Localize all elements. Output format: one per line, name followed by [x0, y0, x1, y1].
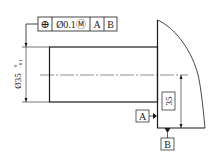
svg-text:Ø35: Ø35 [13, 73, 23, 89]
fcf-datum-secondary: B [107, 19, 114, 30]
datum-b-label: B [164, 139, 171, 150]
datum-a-label: A [139, 111, 147, 122]
diameter-dimension-text: Ø35 0 -0.1 [13, 59, 23, 89]
datum-a-triangle [153, 113, 157, 119]
arrowhead-height-top [180, 75, 183, 79]
fcf-leader-line [26, 24, 38, 44]
technical-drawing: ⊕ Ø0.1Ⓜ A B Ø35 0 -0.1 35 A B [0, 0, 218, 160]
basic-dimension-value: 35 [164, 96, 174, 106]
shaft-outline [50, 47, 158, 102]
fcf-tolerance-value: Ø0.1Ⓜ [56, 19, 86, 30]
arrowhead-diameter-bottom [25, 98, 28, 102]
arrowhead-fcf-leader [25, 43, 28, 47]
svg-text:-0.1: -0.1 [18, 59, 23, 67]
position-symbol-icon: ⊕ [40, 18, 49, 30]
fcf-datum-primary: A [93, 19, 101, 30]
datum-b-triangle [165, 128, 171, 133]
